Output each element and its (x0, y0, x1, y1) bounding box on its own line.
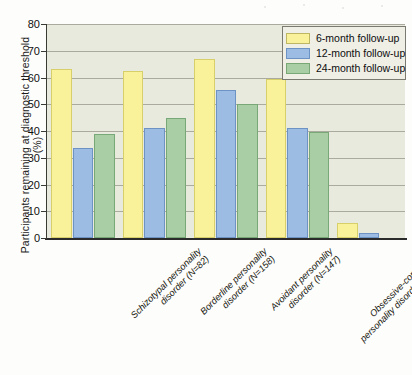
x-axis-label-line: Borderline personality (199, 246, 270, 317)
legend-label-6-month: 6-month follow-up (316, 32, 399, 44)
bar (337, 223, 358, 238)
bar (144, 128, 165, 238)
y-axis-tick-label: 70 (18, 45, 40, 57)
y-axis-tick-mark (41, 185, 47, 186)
x-axis-category-label: Avoidant personalitydisorder (N=147) (268, 246, 343, 321)
scan-noise (250, 2, 400, 12)
y-axis-tick-mark (41, 51, 47, 52)
y-axis-tick-mark (41, 24, 47, 25)
y-axis-tick-mark (41, 104, 47, 105)
x-axis-label-line: Avoidant personality (268, 246, 335, 313)
legend-swatch-icon-6-month (286, 33, 310, 44)
legend-label-12-month: 12-month follow-up (316, 47, 405, 59)
y-axis-tick-label: 60 (18, 72, 40, 84)
legend-label-24-month: 24-month follow-up (316, 62, 405, 74)
bar (51, 69, 72, 238)
bar (287, 128, 308, 238)
y-axis-tick-mark (41, 211, 47, 212)
y-axis-tick-mark (41, 131, 47, 132)
legend-swatch-icon-24-month (286, 63, 310, 74)
bar (194, 59, 215, 238)
bar (237, 104, 258, 238)
y-axis-tick-label: 50 (18, 98, 40, 110)
bar (266, 79, 287, 238)
y-axis-tick-mark (41, 78, 47, 79)
legend-swatch-icon-12-month (286, 48, 310, 59)
x-axis-category-labels: Schizotypal personalitydisorder (N=82)Bo… (0, 240, 412, 375)
bar (166, 118, 187, 238)
y-axis-tick-label: 10 (18, 205, 40, 217)
y-axis-tick-mark (41, 238, 47, 239)
y-axis-tick-label: 40 (18, 125, 40, 137)
y-axis-tick-mark (41, 158, 47, 159)
bar (73, 148, 94, 238)
y-axis-tick-label: 30 (18, 152, 40, 164)
x-axis-category-label: Borderline personalitydisorder (N=158) (199, 246, 278, 325)
bar (123, 71, 144, 238)
legend-item-12-month: 12-month follow-up (286, 46, 401, 60)
legend: 6-month follow-up 12-month follow-up 24-… (282, 26, 406, 80)
x-axis-category-label: Obsessive-compulsivepersonality disorder… (350, 246, 412, 345)
x-axis-category-label: Schizotypal personalitydisorder (N=82) (129, 246, 212, 329)
y-axis-tick-label: 20 (18, 179, 40, 191)
legend-item-6-month: 6-month follow-up (286, 31, 401, 45)
x-axis-label-line: disorder (N=82) (136, 254, 211, 329)
legend-item-24-month: 24-month follow-up (286, 61, 401, 75)
bar (94, 134, 115, 238)
x-axis-label-line: Schizotypal personality (129, 246, 204, 321)
y-axis-tick-label: 80 (18, 18, 40, 30)
bar (216, 90, 237, 238)
bar-chart-figure: Participants remaining at diagnostic thr… (0, 0, 412, 375)
bar (309, 132, 330, 238)
